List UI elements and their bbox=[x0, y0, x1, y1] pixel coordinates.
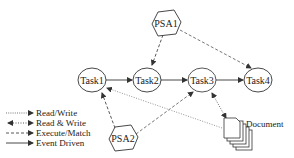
legend-label: Event Driven bbox=[36, 138, 85, 148]
legend-label: Execute/Match bbox=[36, 128, 91, 138]
node-task4[interactable]: Task4 bbox=[244, 68, 272, 92]
edge-psa2-task3 bbox=[136, 92, 193, 134]
node-task3-label: Task3 bbox=[190, 75, 214, 86]
legend-item-event-driven: Event Driven bbox=[6, 138, 85, 148]
edge-psa2-task1 bbox=[102, 93, 115, 128]
edge-psa1-task4 bbox=[180, 30, 251, 68]
node-document[interactable]: Document bbox=[224, 118, 284, 150]
edge-document-task1 bbox=[107, 88, 222, 128]
node-document-label: Document bbox=[246, 119, 284, 129]
node-task3[interactable]: Task3 bbox=[188, 68, 216, 92]
legend-label: Read & Write bbox=[36, 118, 86, 128]
node-psa1-label: PSA1 bbox=[154, 18, 177, 29]
node-psa2[interactable]: PSA2 bbox=[109, 125, 138, 151]
node-task2-label: Task2 bbox=[135, 75, 159, 86]
legend-item-read-write: Read/Write bbox=[6, 108, 77, 118]
diagram-canvas: PSA1 Task1 Task2 Task3 Task4 PSA2 Docume… bbox=[0, 0, 294, 158]
node-psa2-label: PSA2 bbox=[111, 133, 134, 144]
node-task4-label: Task4 bbox=[246, 75, 270, 86]
legend-label: Read/Write bbox=[36, 108, 77, 118]
node-task2[interactable]: Task2 bbox=[133, 68, 161, 92]
node-task1-label: Task1 bbox=[80, 75, 104, 86]
legend-item-execute-match: Execute/Match bbox=[6, 128, 91, 138]
legend-item-read-and-write: Read & Write bbox=[8, 118, 86, 128]
node-psa1[interactable]: PSA1 bbox=[152, 10, 181, 36]
legend: Read/Write Read & Write Execute/Match Ev… bbox=[6, 108, 91, 148]
edge-task3-document bbox=[212, 93, 226, 118]
node-task1[interactable]: Task1 bbox=[78, 68, 106, 92]
edge-psa1-task2 bbox=[152, 35, 163, 65]
